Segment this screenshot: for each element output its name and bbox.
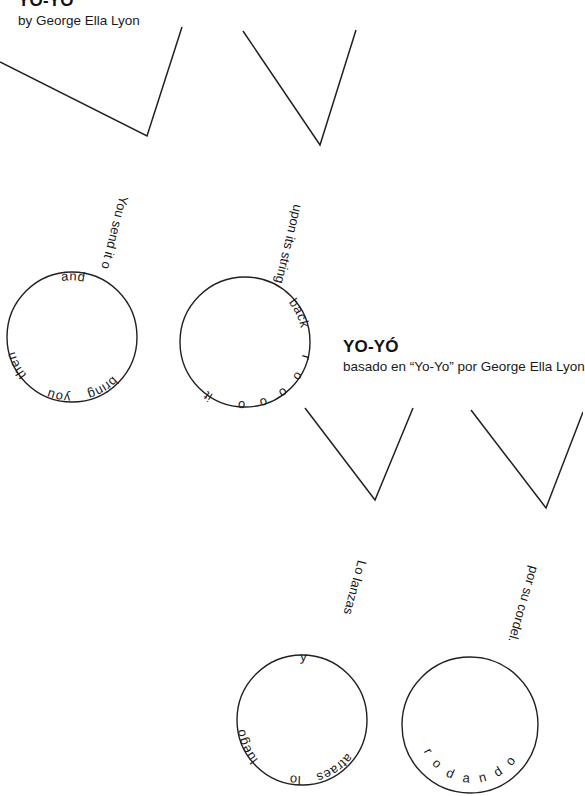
circle-word-3-y-text: y (300, 649, 308, 664)
yoyo-english-1: You send it out then bring you a (0, 0, 182, 406)
circle-word-2-rolling-text: r o o o o l l i n g (0, 0, 314, 413)
string-label-1-text: You send it out (0, 0, 131, 271)
circle-word-3-luego-text: luego (233, 728, 261, 767)
circle-word-3-lo: lo (289, 772, 301, 788)
circle-word-1-you: you (45, 387, 70, 406)
string-label-1: You send it out (0, 0, 137, 271)
circle-word-3-atraes: atraes (314, 751, 356, 785)
circle-word-1-then: then (3, 351, 29, 383)
yoyo-string-line-4 (471, 410, 583, 508)
circle-word-3-atraes-text: atraes (314, 751, 356, 785)
circle-word-2-back: back (286, 295, 312, 329)
yoyo-string-line-3 (305, 408, 413, 500)
circle-word-1-and-text: and (60, 268, 86, 285)
circle-word-1-you-text: you (45, 387, 70, 406)
circle-word-1-and: and (60, 268, 86, 285)
yoyo-english-2: upon its string. back r o o o o l l i n … (0, 0, 356, 413)
circle-word-2-rolling: r o o o o l l i n g (0, 0, 314, 413)
yoyo-string-line-1 (0, 27, 182, 136)
yoyo-string-line-2 (243, 30, 356, 145)
string-label-2-text: upon its string. (0, 0, 306, 285)
circle-word-1-bring-text: bring (86, 374, 121, 403)
circle-word-4-rodando-text: r o d a n d o (421, 745, 521, 786)
string-label-4: por su cordel. (0, 0, 549, 658)
circle-word-3-y: y (300, 649, 308, 664)
circle-word-1-then-text: then (3, 351, 29, 383)
yoyo-spanish-2: por su cordel. r o d a n d o (0, 0, 583, 793)
circle-word-4-rodando: r o d a n d o (421, 745, 521, 786)
circle-word-3-lo-text: lo (289, 772, 301, 788)
circle-word-3-luego: luego (233, 728, 261, 767)
circle-word-2-back-text: back (286, 295, 312, 329)
string-label-4-text: por su cordel. (505, 564, 541, 644)
string-label-3-text: Lo lanzas (341, 559, 370, 617)
circle-word-1-bring: bring (86, 374, 121, 403)
string-label-3: Lo lanzas (0, 0, 376, 655)
string-label-2: upon its string. (0, 0, 311, 285)
